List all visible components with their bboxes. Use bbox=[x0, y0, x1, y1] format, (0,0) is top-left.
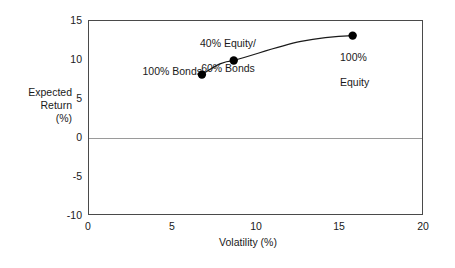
x-tick-0: 0 bbox=[68, 221, 108, 232]
y-tick-0: 0 bbox=[44, 132, 82, 143]
x-axis-title: Volatility (%) bbox=[168, 236, 328, 248]
annotation-mixed-line1: 40% Equity/ bbox=[182, 37, 274, 50]
annotation-100-equity: 100% Equity bbox=[340, 38, 400, 101]
annotation-mixed-line2: 60% Bonds bbox=[182, 62, 274, 75]
chart-container: 15 10 5 0 -5 -10 0 5 10 15 20 Expected R… bbox=[0, 0, 455, 268]
y-tick-10: 10 bbox=[44, 54, 82, 65]
annotation-equity-line2: Equity bbox=[340, 76, 400, 89]
x-tick-20: 20 bbox=[403, 221, 443, 232]
y-tick-minus10: -10 bbox=[44, 210, 82, 221]
y-axis-title-line3: (%) bbox=[0, 112, 72, 125]
y-axis-title: Expected Return (%) bbox=[0, 86, 72, 125]
y-axis-title-line1: Expected bbox=[0, 86, 72, 99]
x-tick-15: 15 bbox=[319, 221, 359, 232]
y-axis-title-line2: Return bbox=[0, 99, 72, 112]
annotation-equity-line1: 100% bbox=[340, 51, 400, 64]
zero-reference-line bbox=[89, 138, 422, 139]
x-tick-10: 10 bbox=[236, 221, 276, 232]
y-tick-minus5: -5 bbox=[44, 171, 82, 182]
annotation-40-equity-60-bonds: 40% Equity/ 60% Bonds bbox=[182, 24, 274, 87]
y-tick-15: 15 bbox=[44, 15, 82, 26]
x-tick-5: 5 bbox=[152, 221, 192, 232]
